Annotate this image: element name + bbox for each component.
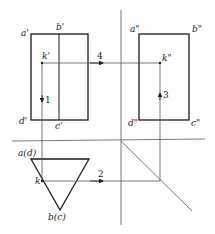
45-degree-line <box>121 141 192 211</box>
step-2: 2 <box>98 169 104 179</box>
step-3: 3 <box>163 90 169 100</box>
point-k-side <box>159 62 161 64</box>
projection-diagram: a' b' k' d' c' a" b" k" d" c" a(d) k b(c… <box>0 0 215 234</box>
label-a-front: a' <box>21 28 29 38</box>
label-ad-top: a(d) <box>18 148 37 158</box>
label-d-side: d" <box>128 118 138 128</box>
label-k-side: k" <box>162 53 172 63</box>
side-view-rect <box>139 34 189 120</box>
step-4: 4 <box>97 51 103 61</box>
label-c-side: c" <box>191 118 200 128</box>
label-a-side: a" <box>130 24 140 34</box>
label-b-side: b" <box>192 24 202 34</box>
label-bc-top: b(c) <box>48 212 66 222</box>
step-1: 1 <box>45 95 51 105</box>
point-k-top <box>41 180 43 182</box>
label-k-top: k <box>35 176 40 186</box>
label-b-front: b' <box>56 22 64 32</box>
horizontal-axis <box>12 139 205 141</box>
label-d-front: d' <box>19 116 27 126</box>
point-k-front <box>41 62 43 64</box>
label-c-front: c' <box>55 121 63 131</box>
label-k-front: k' <box>42 51 50 61</box>
